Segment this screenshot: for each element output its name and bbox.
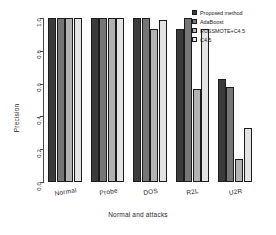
bar: [74, 18, 82, 182]
legend-label: RUSSMOTE+C4.5: [200, 28, 245, 34]
bar: [116, 18, 124, 182]
bar: [65, 18, 73, 182]
bar: [57, 18, 65, 182]
legend-item: C4.5: [192, 36, 245, 44]
bar: [48, 18, 56, 182]
bar: [150, 29, 158, 182]
x-axis-title: Normal and attacks: [0, 211, 276, 218]
bar: [176, 29, 184, 182]
bar: [201, 29, 209, 182]
x-tick-label: U2R: [228, 187, 243, 196]
x-tick-label: DOS: [143, 187, 159, 196]
legend-label: Proposed method: [200, 10, 243, 16]
bar: [193, 89, 201, 182]
bar: [133, 18, 141, 182]
bar: [108, 18, 116, 182]
y-tick-label: 0.8: [36, 50, 42, 59]
legend-label: AdaBoost: [200, 19, 223, 25]
legend-swatch-icon: [192, 37, 197, 42]
bar: [235, 159, 243, 182]
bar: [244, 128, 252, 182]
bar: [91, 18, 99, 182]
bar: [226, 87, 234, 182]
x-tick-label: Normal: [54, 186, 77, 196]
legend-item: Proposed method: [192, 9, 245, 17]
bar-chart: Precision 1.00.80.60.40.20.0 NormalProbe…: [0, 0, 276, 235]
y-tick-label: 0.2: [36, 149, 42, 158]
y-tick-label: 0.4: [36, 116, 42, 125]
chart-legend: Proposed methodAdaBoostRUSSMOTE+C4.5C4.5: [192, 9, 245, 45]
bar: [184, 18, 192, 182]
y-axis-title: Precision: [13, 103, 20, 132]
bar: [99, 18, 107, 182]
bar-group: [91, 18, 125, 182]
bar-group: [133, 18, 167, 182]
y-tick-label: 0.0: [36, 182, 42, 191]
x-tick-label: Probe: [99, 187, 118, 197]
x-tick-label: R2L: [186, 187, 199, 196]
legend-item: RUSSMOTE+C4.5: [192, 27, 245, 35]
y-tick-label: 1.0: [36, 18, 42, 27]
bar: [142, 18, 150, 182]
bar: [218, 79, 226, 182]
legend-label: C4.5: [200, 37, 211, 43]
y-tick-label: 0.6: [36, 83, 42, 92]
bar-group: [48, 18, 82, 182]
legend-swatch-icon: [192, 28, 197, 33]
legend-item: AdaBoost: [192, 18, 245, 26]
bar: [159, 20, 167, 182]
legend-swatch-icon: [192, 19, 197, 24]
legend-swatch-icon: [192, 10, 197, 15]
